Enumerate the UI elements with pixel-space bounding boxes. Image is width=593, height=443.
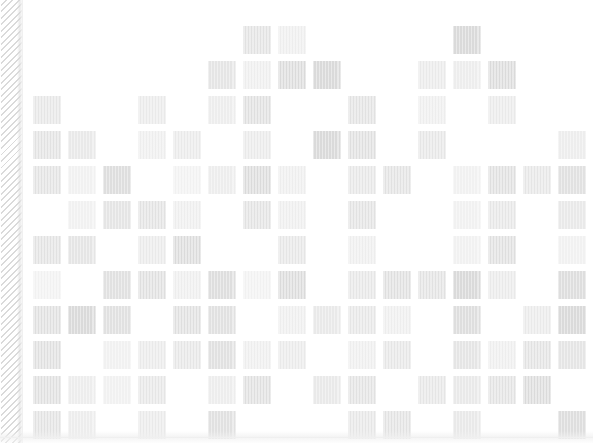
heatmap-cell bbox=[313, 131, 341, 159]
heatmap-cell bbox=[243, 61, 271, 89]
heatmap-cell bbox=[208, 306, 236, 334]
heatmap-cell bbox=[33, 341, 61, 369]
heatmap-cell bbox=[453, 201, 481, 229]
heatmap-cell bbox=[348, 376, 376, 404]
bottom-edge-shadow bbox=[0, 431, 593, 443]
heatmap-cell bbox=[558, 201, 586, 229]
heatmap-cell bbox=[278, 271, 306, 299]
heatmap-cell bbox=[488, 201, 516, 229]
heatmap-cell bbox=[173, 201, 201, 229]
hatch-band-hairline bbox=[22, 0, 23, 443]
heatmap-cell bbox=[278, 341, 306, 369]
heatmap-cell bbox=[243, 376, 271, 404]
heatmap-cell bbox=[418, 131, 446, 159]
heatmap-cell bbox=[453, 236, 481, 264]
heatmap-cell bbox=[243, 166, 271, 194]
heatmap-cell bbox=[488, 96, 516, 124]
heatmap-cell bbox=[453, 376, 481, 404]
heatmap-cell bbox=[488, 376, 516, 404]
heatmap-cell bbox=[138, 271, 166, 299]
heatmap-cell bbox=[348, 201, 376, 229]
heatmap-cell bbox=[173, 271, 201, 299]
heatmap-cell bbox=[278, 306, 306, 334]
heatmap-cell bbox=[383, 341, 411, 369]
heatmap-cell bbox=[243, 271, 271, 299]
heatmap-cell bbox=[558, 341, 586, 369]
heatmap-cell bbox=[418, 96, 446, 124]
heatmap-cell bbox=[33, 96, 61, 124]
heatmap-cell bbox=[243, 26, 271, 54]
heatmap-cell bbox=[208, 376, 236, 404]
heatmap-cell bbox=[313, 306, 341, 334]
heatmap-cell bbox=[138, 201, 166, 229]
heatmap-cell bbox=[243, 131, 271, 159]
heatmap-cell bbox=[68, 131, 96, 159]
heatmap-cell bbox=[208, 96, 236, 124]
heatmap-cell bbox=[348, 271, 376, 299]
heatmap-cell bbox=[173, 236, 201, 264]
heatmap-cell bbox=[243, 96, 271, 124]
heatmap-cell bbox=[243, 341, 271, 369]
heatmap-cell bbox=[383, 306, 411, 334]
heatmap-cell bbox=[138, 376, 166, 404]
heatmap-cell bbox=[558, 166, 586, 194]
heatmap-cell bbox=[208, 166, 236, 194]
heatmap-cell bbox=[208, 341, 236, 369]
heatmap-cell bbox=[313, 61, 341, 89]
heatmap-cell bbox=[278, 26, 306, 54]
heatmap-cell bbox=[488, 166, 516, 194]
heatmap-cell bbox=[103, 201, 131, 229]
heatmap-cell bbox=[138, 341, 166, 369]
heatmap-cell bbox=[68, 376, 96, 404]
heatmap-cell bbox=[488, 341, 516, 369]
heatmap-cell bbox=[453, 271, 481, 299]
heatmap-cell bbox=[523, 341, 551, 369]
heatmap-cell bbox=[453, 166, 481, 194]
heatmap-cell bbox=[383, 271, 411, 299]
heatmap-cell bbox=[33, 131, 61, 159]
heatmap-cell bbox=[173, 166, 201, 194]
heatmap-cell bbox=[348, 341, 376, 369]
heatmap-cell bbox=[138, 131, 166, 159]
heatmap-cell bbox=[33, 306, 61, 334]
heatmap-cell bbox=[558, 306, 586, 334]
heatmap-cell bbox=[278, 201, 306, 229]
heatmap-cell bbox=[418, 271, 446, 299]
heatmap-cell bbox=[488, 61, 516, 89]
heatmap-cell bbox=[68, 166, 96, 194]
heatmap-cell bbox=[523, 306, 551, 334]
heatmap-cell bbox=[383, 166, 411, 194]
heatmap-cell bbox=[558, 236, 586, 264]
heatmap-cell bbox=[523, 166, 551, 194]
heatmap-cell bbox=[173, 131, 201, 159]
heatmap-cell bbox=[208, 61, 236, 89]
heatmap-cell bbox=[33, 376, 61, 404]
heatmap-cell bbox=[348, 96, 376, 124]
heatmap-cell bbox=[558, 131, 586, 159]
heatmap-cell bbox=[173, 341, 201, 369]
heatmap-cell bbox=[453, 26, 481, 54]
heatmap-cell bbox=[103, 271, 131, 299]
heatmap-cell bbox=[278, 61, 306, 89]
heatmap-cell bbox=[103, 376, 131, 404]
heatmap-cell bbox=[348, 236, 376, 264]
heatmap-cell bbox=[278, 236, 306, 264]
heatmap-cell bbox=[138, 96, 166, 124]
heatmap-cell bbox=[173, 306, 201, 334]
heatmap-cell bbox=[68, 201, 96, 229]
heatmap-cell bbox=[418, 376, 446, 404]
heatmap-cell bbox=[348, 306, 376, 334]
heatmap-canvas bbox=[0, 0, 593, 443]
heatmap-cell bbox=[33, 271, 61, 299]
heatmap-cell bbox=[103, 166, 131, 194]
heatmap-cell bbox=[103, 341, 131, 369]
heatmap-cell bbox=[523, 376, 551, 404]
heatmap-cell bbox=[33, 236, 61, 264]
heatmap-cell bbox=[488, 271, 516, 299]
heatmap-grid bbox=[0, 0, 593, 443]
heatmap-cell bbox=[453, 306, 481, 334]
heatmap-cell bbox=[418, 61, 446, 89]
heatmap-cell bbox=[68, 306, 96, 334]
heatmap-cell bbox=[313, 376, 341, 404]
heatmap-cell bbox=[453, 341, 481, 369]
